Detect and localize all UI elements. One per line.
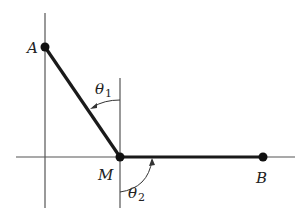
label-theta1: θ1 — [95, 80, 112, 100]
label-b: B — [255, 169, 267, 187]
theta2-arrowhead-icon — [149, 158, 155, 166]
theta1-arc — [93, 100, 120, 107]
point-a — [41, 43, 50, 52]
diagram-canvas: A M B θ1 θ2 — [0, 0, 307, 222]
segment-am — [45, 47, 120, 157]
theta1-arrowhead-icon — [90, 103, 97, 109]
point-b — [259, 153, 268, 162]
label-m: M — [97, 166, 114, 184]
label-a: A — [25, 39, 38, 57]
point-m — [116, 153, 125, 162]
label-theta2: θ2 — [128, 184, 145, 204]
